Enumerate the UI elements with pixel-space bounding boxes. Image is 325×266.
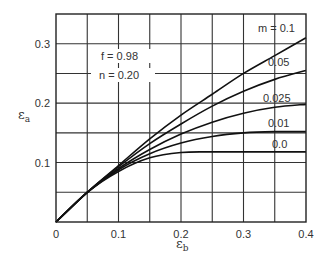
y-tick-label: 0.1 bbox=[35, 157, 50, 169]
series-label: 0.01 bbox=[268, 117, 289, 129]
y-ticks: 0.10.20.3 bbox=[35, 38, 50, 169]
y-tick-label: 0.3 bbox=[35, 38, 50, 50]
y-tick-label: 0.2 bbox=[35, 97, 50, 109]
annotation-f: f = 0.98 bbox=[101, 50, 138, 62]
x-ticks: 00.10.20.30.4 bbox=[53, 228, 314, 240]
series-label: 0.025 bbox=[263, 92, 291, 104]
y-axis-label: εa bbox=[18, 107, 31, 124]
series-label: 0.0 bbox=[272, 138, 287, 150]
x-tick-label: 0 bbox=[53, 228, 59, 240]
chart: 00.10.20.30.4 0.10.20.3 m = 0.10.050.025… bbox=[0, 0, 325, 266]
x-tick-label: 0.4 bbox=[298, 228, 313, 240]
x-tick-label: 0.3 bbox=[236, 228, 251, 240]
annotation-n: n = 0.20 bbox=[99, 69, 139, 81]
series-label: m = 0.1 bbox=[258, 22, 295, 34]
series-label: 0.05 bbox=[268, 56, 289, 68]
x-tick-label: 0.1 bbox=[111, 228, 126, 240]
